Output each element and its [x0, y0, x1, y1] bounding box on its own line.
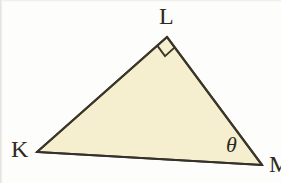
angle-label-theta: θ — [226, 134, 237, 156]
triangle-canvas — [0, 0, 281, 183]
vertex-label-m: M — [269, 152, 281, 176]
vertex-label-k: K — [11, 137, 28, 161]
vertex-label-l: L — [159, 4, 174, 28]
geometry-figure: K L M θ — [0, 0, 281, 183]
